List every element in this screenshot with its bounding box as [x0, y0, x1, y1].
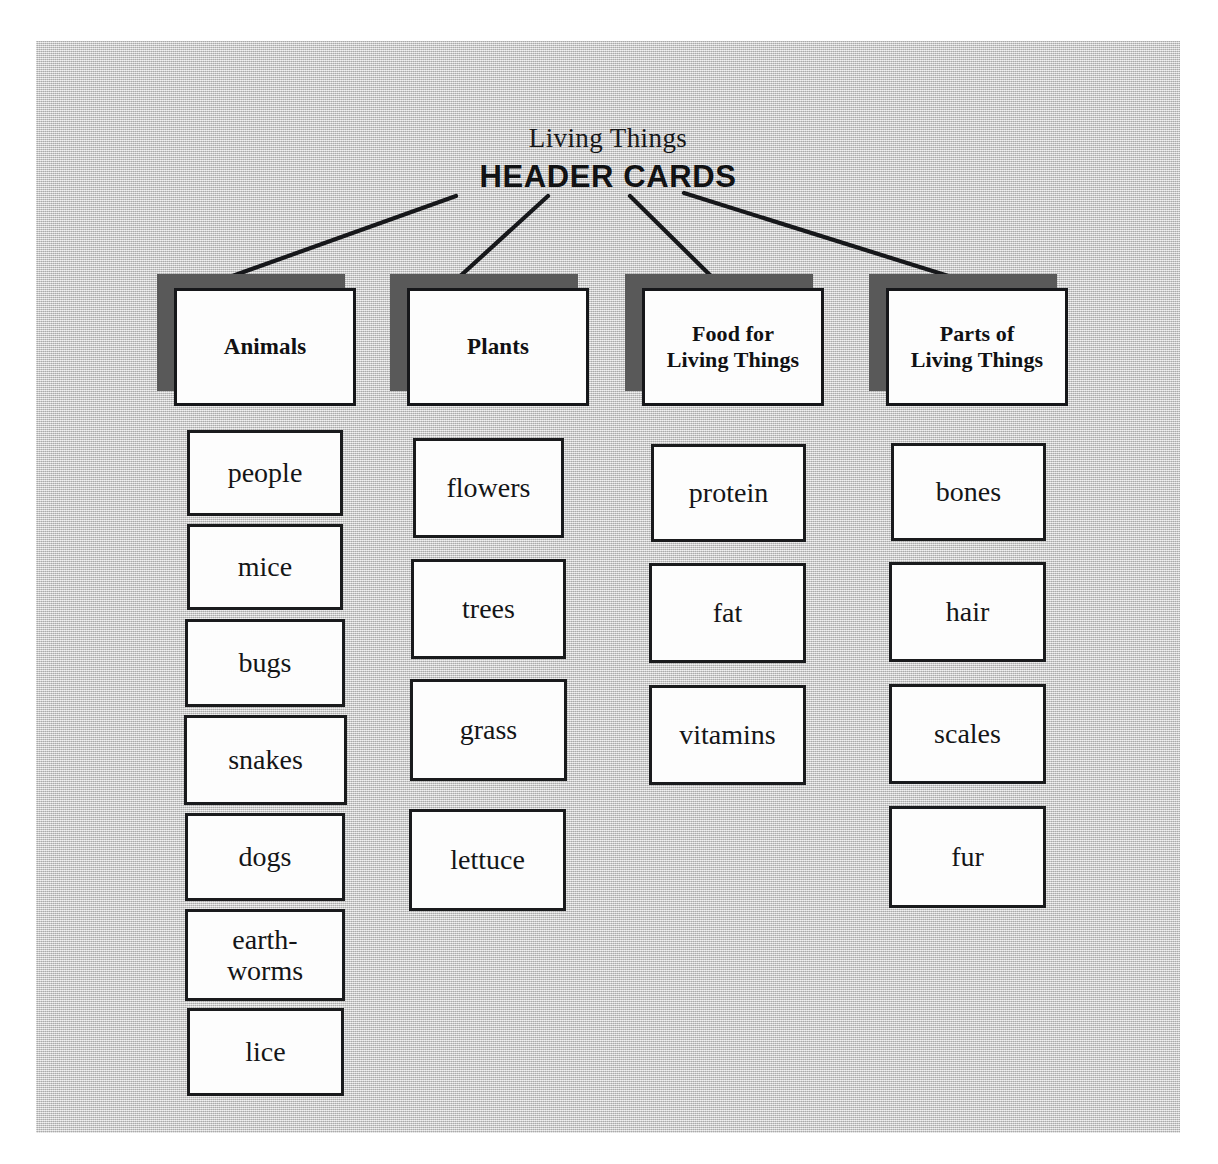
word-card-label: trees	[458, 593, 519, 624]
word-card[interactable]: snakes	[184, 715, 347, 805]
column-2-header-card[interactable]: Plants	[407, 288, 589, 406]
word-card[interactable]: lice	[187, 1008, 344, 1096]
word-card[interactable]: mice	[187, 524, 343, 610]
column-1-header-card[interactable]: Animals	[174, 288, 356, 406]
word-card-label: snakes	[224, 744, 307, 775]
word-card-label: bugs	[235, 647, 296, 678]
word-card-label: mice	[234, 551, 296, 582]
word-card[interactable]: bugs	[185, 619, 345, 707]
word-card[interactable]: flowers	[413, 438, 564, 538]
column-3-header-label: Food for Living Things	[665, 321, 801, 373]
word-card[interactable]: bones	[891, 443, 1046, 541]
column-3-header-card[interactable]: Food for Living Things	[642, 288, 824, 406]
word-card-label: lettuce	[446, 844, 529, 875]
column-2-header-label: Plants	[465, 333, 531, 360]
word-card-label: earth- worms	[223, 924, 307, 987]
word-card[interactable]: fur	[889, 806, 1046, 908]
word-card-label: hair	[942, 596, 994, 627]
word-card[interactable]: people	[187, 430, 343, 516]
page-title: Living Things	[36, 123, 1180, 154]
connector-line-to-column-1	[224, 196, 456, 279]
word-card-label: scales	[930, 718, 1005, 749]
word-card[interactable]: protein	[651, 444, 806, 542]
word-card-label: fat	[709, 597, 747, 628]
word-card[interactable]: scales	[889, 684, 1046, 784]
word-card[interactable]: earth- worms	[185, 909, 345, 1001]
connector-line-to-column-3	[630, 196, 714, 279]
column-4-header-label: Parts of Living Things	[909, 321, 1045, 373]
word-card-label: protein	[685, 477, 772, 508]
word-card-label: fur	[947, 841, 988, 872]
word-card[interactable]: lettuce	[409, 809, 566, 911]
word-card[interactable]: grass	[410, 679, 567, 781]
connector-line-to-column-2	[457, 196, 548, 279]
word-card-label: grass	[456, 714, 522, 745]
connector-line-to-column-4	[684, 193, 958, 279]
word-card-label: bones	[932, 476, 1005, 507]
column-4-header-card[interactable]: Parts of Living Things	[886, 288, 1068, 406]
word-card[interactable]: fat	[649, 563, 806, 663]
word-card-label: dogs	[235, 841, 296, 872]
header-cards-label: HEADER CARDS	[36, 159, 1180, 195]
word-card-label: flowers	[443, 472, 535, 503]
word-card-label: lice	[241, 1036, 289, 1067]
word-card-label: people	[224, 457, 307, 488]
scanned-page: Living Things HEADER CARDS Animals peopl…	[0, 0, 1218, 1164]
column-1-header-label: Animals	[222, 333, 309, 360]
diagram-panel: Living Things HEADER CARDS Animals peopl…	[36, 41, 1180, 1133]
word-card[interactable]: hair	[889, 562, 1046, 662]
word-card-label: vitamins	[675, 719, 779, 750]
word-card[interactable]: trees	[411, 559, 566, 659]
word-card[interactable]: vitamins	[649, 685, 806, 785]
word-card[interactable]: dogs	[185, 813, 345, 901]
